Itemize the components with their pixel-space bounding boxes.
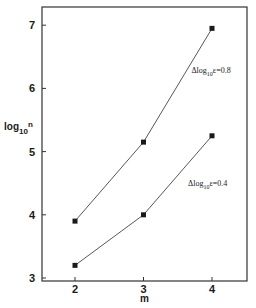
series-annotation: Δlog10ε=0.8 [191,66,230,77]
y-tick-label: 4 [29,209,36,221]
y-tick-label: 6 [29,82,35,94]
axis-ticks: 34567234 [29,19,216,295]
data-point-marker [73,263,78,268]
data-point-marker [210,133,215,138]
x-tick-label: 4 [209,283,216,295]
data-series [73,26,215,268]
y-tick-label: 3 [29,272,35,284]
y-tick-label: 7 [29,19,35,31]
x-tick-label: 2 [72,283,78,295]
line-chart: log10n m 34567234 Δlog10ε=0.8Δlog10ε=0.4 [0,0,256,308]
series-line [75,136,212,266]
series-annotation: Δlog10ε=0.4 [188,179,227,190]
series-line [75,28,212,221]
data-point-marker [141,140,146,145]
y-axis-label: log10n [4,120,33,136]
data-point-marker [210,26,215,31]
annotations: Δlog10ε=0.8Δlog10ε=0.4 [188,66,231,191]
x-tick-label: 3 [141,283,147,295]
y-tick-label: 5 [29,146,35,158]
data-point-marker [73,219,78,224]
plot-area: log10n m 34567234 Δlog10ε=0.8Δlog10ε=0.4 [0,0,256,308]
data-point-marker [141,212,146,217]
